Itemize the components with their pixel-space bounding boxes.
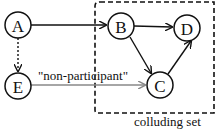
node-b: B [108,13,134,39]
node-a: A [5,12,31,38]
node-a-label: A [12,17,25,36]
node-d-label: D [181,20,193,39]
edge-b-c [130,37,151,73]
graph-svg: "non-participant" A B C D E colluding se… [0,0,224,129]
colluding-set-label: colluding set [134,114,201,129]
node-c-label: C [154,77,165,96]
node-b-label: B [115,18,126,37]
node-e: E [5,73,31,99]
node-d: D [174,15,200,41]
edge-c-d [168,41,191,74]
node-e-label: E [13,78,23,97]
node-c: C [147,72,173,98]
edge-label-non-participant: "non-participant" [38,68,128,83]
diagram-canvas: "non-participant" A B C D E colluding se… [0,0,224,129]
edge-b-d [134,26,172,27]
